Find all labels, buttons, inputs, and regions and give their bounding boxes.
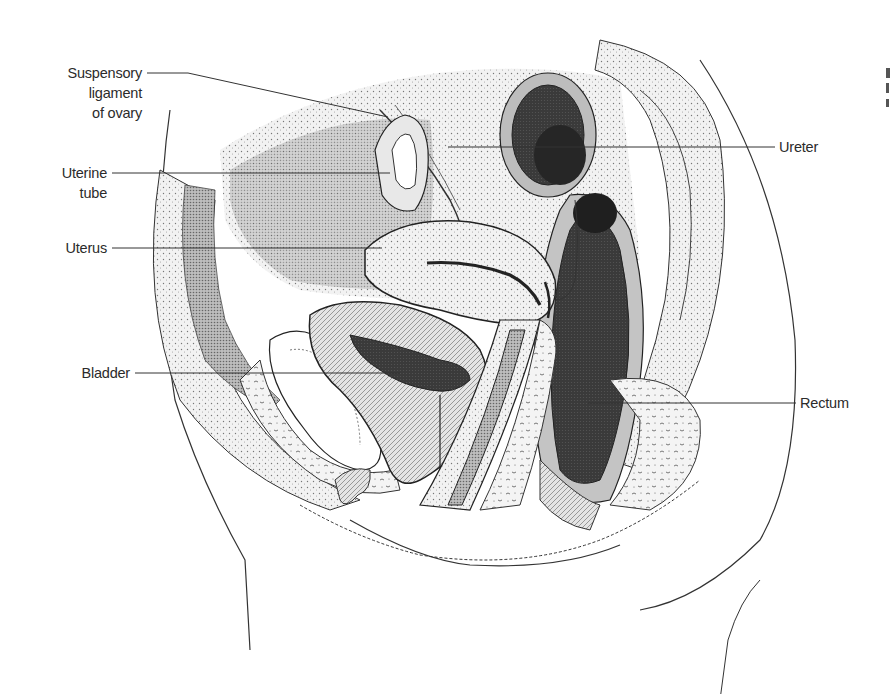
label-bladder: Bladder <box>40 363 130 383</box>
cropped-text-fragment <box>886 68 890 78</box>
label-suspensory-ligament: Suspensory ligament of ovary <box>40 63 142 123</box>
pelvis-diagram: Suspensory ligament of ovary Uterine tub… <box>0 0 891 694</box>
label-uterus: Uterus <box>40 238 107 258</box>
label-ureter: Ureter <box>779 137 818 157</box>
label-uterine-tube: Uterine tube <box>40 163 107 203</box>
cropped-text-fragment <box>886 99 889 107</box>
cropped-text-fragment <box>886 83 889 93</box>
label-rectum: Rectum <box>800 393 849 413</box>
